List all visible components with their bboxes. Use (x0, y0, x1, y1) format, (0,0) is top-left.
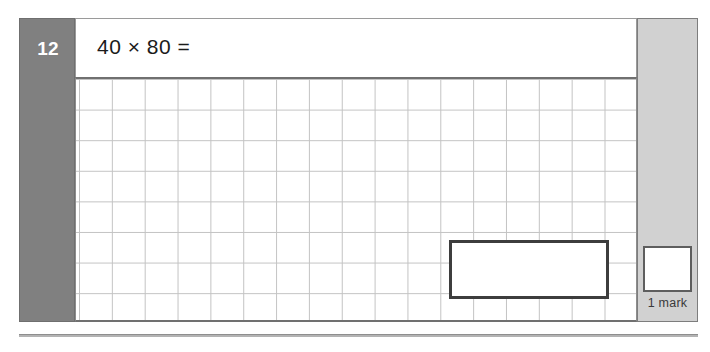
question-number-label: 12 (20, 39, 76, 58)
question-text: 40 × 80 = (97, 35, 190, 59)
answer-box[interactable] (449, 240, 609, 299)
question-text-strip: 40 × 80 = (75, 18, 637, 78)
marking-panel: 1 mark (637, 18, 698, 322)
mark-label: 1 mark (638, 296, 697, 310)
working-grid[interactable] (75, 77, 637, 322)
mark-score-box[interactable] (643, 246, 692, 292)
question-number-block: 12 (19, 18, 75, 322)
worksheet-question: 12 40 × 80 = 1 mark (0, 0, 710, 352)
page-separator-rule (19, 334, 698, 337)
